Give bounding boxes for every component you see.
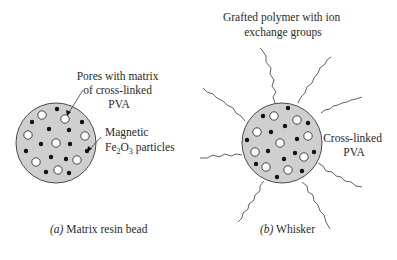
- magnetic-label: Magnetic: [105, 126, 148, 139]
- panel-b-whisker: Grafted polymer with ion exchange groups…: [200, 11, 385, 236]
- cross-linked-label: Cross-linked PVA: [323, 132, 385, 158]
- caption-a: (a) Matrix resin bead: [50, 223, 148, 236]
- diagram-canvas: Pores with matrix of cross-linked PVA Ma…: [0, 0, 397, 260]
- panel-a-matrix-resin-bead: Pores with matrix of cross-linked PVA Ma…: [16, 70, 175, 236]
- grafted-polymer-label: Grafted polymer with ion exchange groups: [223, 11, 343, 39]
- pores-label: Pores with matrix of cross-linked PVA: [77, 70, 162, 110]
- caption-b: (b) Whisker: [260, 223, 315, 236]
- fe2o3-label: Fe2O3 particles: [105, 141, 175, 156]
